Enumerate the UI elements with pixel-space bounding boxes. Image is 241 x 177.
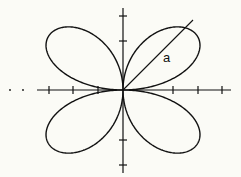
radius-label: a [163, 50, 171, 65]
axis-dot [9, 89, 11, 91]
rose-diagram: a [0, 0, 241, 177]
axis-dot [22, 89, 24, 91]
